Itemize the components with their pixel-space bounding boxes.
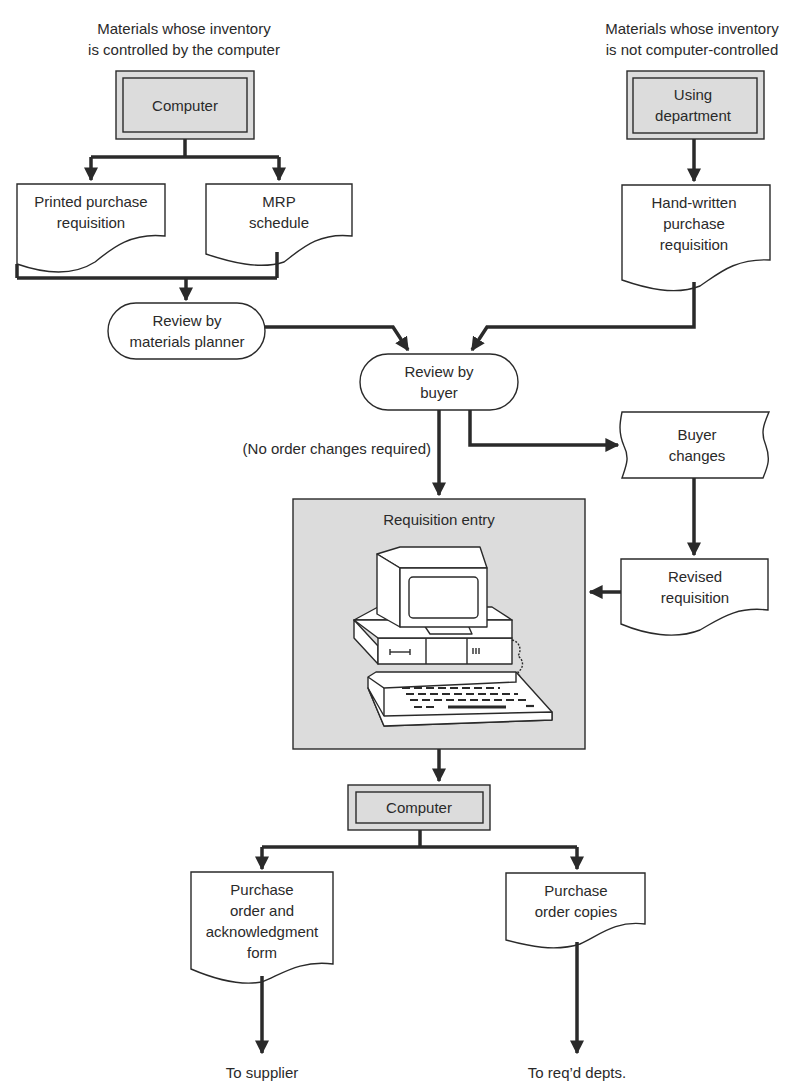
handwritten-requisition-doc: Hand-written purchase requisition: [622, 185, 770, 291]
output-depts-label: To req’d depts.: [528, 1064, 626, 1081]
review-buyer-terminal: Review by buyer: [360, 354, 518, 410]
computer-bottom-label: Computer: [386, 799, 452, 816]
connector-planner-to-buyer: [265, 327, 408, 350]
review-buyer-label-2: buyer: [420, 384, 458, 401]
po-ack-form-doc: Purchase order and acknowledgment form: [191, 872, 333, 983]
revised-requisition-label-2: requisition: [661, 589, 729, 606]
header-right: Materials whose inventory is not compute…: [605, 20, 779, 58]
using-department-box: Using department: [627, 71, 764, 139]
computer-bottom-box: Computer: [348, 785, 490, 830]
using-department-label-2: department: [655, 107, 732, 124]
revised-requisition-doc: Revised requisition: [621, 559, 768, 635]
po-copies-label-2: order copies: [535, 903, 618, 920]
header-left-line-1: Materials whose inventory: [97, 20, 271, 37]
purchasing-flowchart: Materials whose inventory is controlled …: [0, 0, 805, 1087]
output-supplier-label: To supplier: [226, 1064, 299, 1081]
printed-requisition-label-1: Printed purchase: [34, 193, 147, 210]
buyer-changes-label-2: changes: [669, 447, 726, 464]
buyer-changes-label-1: Buyer: [677, 426, 716, 443]
header-left-line-2: is controlled by the computer: [88, 41, 280, 58]
using-department-label-1: Using: [674, 86, 712, 103]
mrp-schedule-doc: MRP schedule: [206, 184, 352, 265]
handwritten-requisition-label-1: Hand-written: [651, 194, 736, 211]
computer-top-label: Computer: [152, 97, 218, 114]
review-buyer-label-1: Review by: [404, 363, 474, 380]
po-ack-label-4: form: [247, 944, 277, 961]
no-changes-label: (No order changes required): [243, 440, 431, 457]
handwritten-requisition-label-3: requisition: [660, 236, 728, 253]
review-planner-label-1: Review by: [152, 312, 222, 329]
mrp-schedule-label-2: schedule: [249, 214, 309, 231]
review-planner-label-2: materials planner: [129, 333, 244, 350]
computer-top-box: Computer: [116, 71, 254, 139]
mrp-schedule-label-1: MRP: [262, 193, 295, 210]
requisition-entry-box: Requisition entry: [293, 499, 585, 749]
connector-computer-split: [91, 139, 279, 180]
connector-buyer-to-changes: [470, 410, 618, 445]
po-copies-label-1: Purchase: [544, 882, 607, 899]
po-ack-label-1: Purchase: [230, 881, 293, 898]
printed-requisition-doc: Printed purchase requisition: [17, 184, 165, 272]
review-planner-terminal: Review by materials planner: [108, 303, 265, 359]
header-right-line-1: Materials whose inventory: [605, 20, 779, 37]
requisition-entry-label: Requisition entry: [383, 511, 495, 528]
po-copies-doc: Purchase order copies: [506, 873, 645, 948]
connector-handwritten-to-buyer: [472, 282, 694, 350]
header-left: Materials whose inventory is controlled …: [88, 20, 280, 58]
po-ack-label-2: order and: [230, 902, 294, 919]
handwritten-requisition-label-2: purchase: [663, 215, 725, 232]
connector-computer-bottom-split: [262, 830, 577, 869]
revised-requisition-label-1: Revised: [668, 568, 722, 585]
po-ack-label-3: acknowledgment: [206, 923, 319, 940]
header-right-line-2: is not computer-controlled: [606, 41, 779, 58]
printed-requisition-label-2: requisition: [57, 214, 125, 231]
buyer-changes-tape: Buyer changes: [620, 412, 769, 478]
